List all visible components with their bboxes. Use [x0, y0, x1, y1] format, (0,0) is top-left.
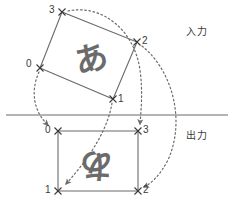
- output-glyph-a: あ: [80, 144, 113, 192]
- corner-marker-input-1: [110, 96, 117, 103]
- corner-marker-input-3: [59, 9, 66, 16]
- corner-marker-input-0: [37, 65, 44, 72]
- input-section-label: 入力: [186, 26, 207, 37]
- input-corner-label-0: 0: [26, 59, 32, 69]
- output-corner-label-2: 2: [143, 185, 149, 195]
- input-corner-label-1: 1: [118, 94, 124, 104]
- input-corner-label-2: 2: [142, 36, 148, 46]
- diagram-canvas: 0 1 2 3 0 1 2 3 あ あ 入力 出力: [0, 0, 234, 212]
- output-corner-label-3: 3: [143, 125, 149, 135]
- arrow-corner-2: [142, 46, 176, 187]
- input-corner-label-3: 3: [49, 5, 55, 15]
- output-section-label: 出力: [186, 130, 207, 141]
- corner-marker-input-2: [134, 39, 141, 46]
- arrow-corner-0: [34, 72, 48, 125]
- output-corner-label-0: 0: [45, 125, 51, 135]
- output-corner-label-1: 1: [45, 185, 51, 195]
